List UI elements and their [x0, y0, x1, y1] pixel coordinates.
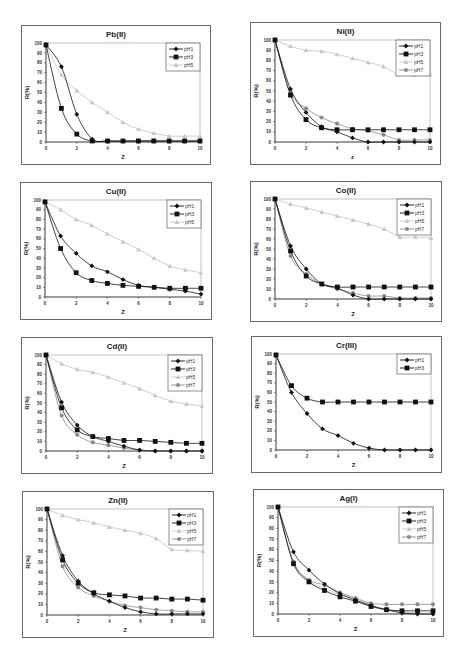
y-tick-label: 10	[36, 285, 42, 290]
x-axis-label: Z	[352, 462, 356, 468]
chart-title: Cu(II)	[106, 187, 127, 196]
x-axis-label: Z	[354, 626, 358, 632]
y-tick-label: 100	[263, 38, 271, 43]
diamond-marker-icon	[105, 269, 110, 274]
y-tick-label: 20	[266, 119, 272, 124]
legend-label: pH3	[184, 54, 193, 60]
y-tick-label: 10	[38, 602, 44, 607]
chart-title: Ag(I)	[339, 494, 358, 503]
x-tick-label: 2	[76, 455, 79, 460]
square-marker-icon	[123, 594, 128, 599]
y-tick-label: 30	[36, 266, 42, 271]
square-marker-icon	[137, 438, 142, 443]
square-marker-icon	[405, 366, 410, 371]
x-tick-label: 6	[370, 618, 373, 623]
x-tick-label: 4	[108, 619, 111, 624]
y-tick-label: 70	[269, 537, 275, 542]
x-tick-label: 4	[336, 303, 339, 308]
y-tick-label: 50	[37, 90, 43, 95]
circle-marker-icon	[319, 115, 323, 119]
square-marker-icon	[153, 439, 158, 444]
y-tick-label: 30	[37, 420, 43, 425]
square-marker-icon	[381, 127, 386, 132]
chart-title: Cd(II)	[107, 342, 128, 351]
y-tick-label: 80	[37, 60, 43, 65]
x-tick-label: 6	[367, 303, 370, 308]
y-tick-label: 10	[37, 130, 43, 135]
y-tick-label: 90	[37, 51, 43, 56]
square-marker-icon	[382, 400, 387, 405]
x-tick-label: 6	[137, 301, 140, 306]
x-tick-label: 4	[336, 146, 339, 151]
y-tick-label: 80	[37, 372, 43, 377]
y-tick-label: 60	[266, 237, 272, 242]
y-tick-label: 40	[266, 257, 272, 262]
legend-label: pH1	[187, 512, 196, 518]
legend-label: pH1	[415, 357, 424, 363]
circle-marker-icon	[60, 413, 64, 417]
diamond-marker-icon	[381, 140, 386, 145]
y-tick-label: 50	[266, 247, 272, 252]
chart-zn: Zn(II)01020304050607080901000246810ZR(%)…	[22, 491, 214, 638]
square-marker-icon	[74, 132, 79, 137]
legend-label: pH5	[414, 59, 423, 65]
y-tick-label: 20	[266, 277, 272, 282]
y-tick-label: 90	[37, 362, 43, 367]
y-tick-label: 70	[267, 380, 273, 385]
y-tick-label: 100	[266, 505, 274, 510]
y-tick-label: 20	[36, 275, 42, 280]
x-tick-label: 6	[139, 619, 142, 624]
y-tick-label: 50	[267, 400, 273, 405]
x-tick-label: 2	[76, 146, 79, 151]
chart-svg: Cu(II)01020304050607080901000246810ZR(%)…	[21, 183, 211, 319]
y-tick-label: 70	[37, 70, 43, 75]
circle-marker-icon	[106, 443, 110, 447]
square-marker-icon	[174, 55, 179, 60]
y-tick-label: 50	[37, 401, 43, 406]
y-tick-label: 50	[269, 558, 275, 563]
y-tick-label: 40	[269, 569, 275, 574]
x-tick-label: 6	[138, 455, 141, 460]
x-tick-label: 10	[427, 146, 433, 151]
diamond-marker-icon	[382, 448, 387, 453]
circle-marker-icon	[404, 68, 408, 72]
circle-marker-icon	[139, 606, 143, 610]
legend-label: pH1	[417, 510, 426, 516]
triangle-marker-icon	[74, 217, 79, 221]
square-marker-icon	[428, 127, 433, 132]
square-marker-icon	[305, 396, 310, 401]
legend-label: pH1	[415, 202, 424, 208]
y-tick-label: 40	[37, 410, 43, 415]
square-marker-icon	[413, 400, 418, 405]
chart-cd: Cd(II)01020304050607080901000246810ZR(%)…	[21, 337, 213, 474]
diamond-marker-icon	[168, 449, 173, 454]
square-marker-icon	[366, 285, 371, 290]
x-tick-label: 0	[45, 455, 48, 460]
circle-marker-icon	[304, 106, 308, 110]
y-tick-label: 50	[266, 89, 272, 94]
square-marker-icon	[122, 438, 127, 443]
triangle-marker-icon	[105, 110, 110, 114]
chart-svg: Cd(II)01020304050607080901000246810ZR(%)…	[22, 338, 212, 473]
square-marker-icon	[350, 127, 355, 132]
y-tick-label: 30	[269, 580, 275, 585]
square-marker-icon	[289, 383, 294, 388]
diamond-marker-icon	[153, 449, 158, 454]
diamond-marker-icon	[60, 553, 65, 558]
x-tick-label: 0	[46, 619, 49, 624]
x-tick-label: 2	[77, 619, 80, 624]
y-tick-label: 30	[38, 581, 44, 586]
triangle-marker-icon	[121, 120, 126, 124]
chart-title: Ni(II)	[337, 27, 355, 36]
square-marker-icon	[291, 561, 296, 566]
y-tick-label: 90	[38, 517, 44, 522]
y-tick-label: 90	[267, 361, 273, 366]
y-tick-label: 60	[38, 549, 44, 554]
y-axis-label: R(%)	[23, 242, 29, 256]
x-tick-label: 0	[45, 146, 48, 151]
triangle-marker-icon	[59, 361, 64, 365]
y-tick-label: 60	[267, 390, 273, 395]
diamond-marker-icon	[199, 292, 204, 297]
chart-title: Zn(II)	[108, 496, 128, 505]
x-tick-label: 8	[399, 303, 402, 308]
